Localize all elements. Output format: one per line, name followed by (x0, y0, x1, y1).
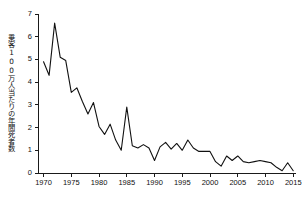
x-tick-label: 2015 (285, 178, 302, 187)
x-tick-label-group: 1970197519801985199019952000200520102015 (35, 178, 301, 187)
y-tick-label: 5 (28, 54, 32, 63)
x-tick-label: 2010 (257, 178, 274, 187)
x-tick-mark-group (44, 173, 294, 177)
y-tick-label: 0 (28, 168, 32, 177)
x-tick-label: 2005 (229, 178, 246, 187)
y-tick-label: 1 (28, 145, 32, 154)
x-tick-label: 2000 (202, 178, 219, 187)
y-tick-mark-group (35, 14, 39, 173)
x-tick-label: 1980 (91, 178, 108, 187)
y-tick-label: 4 (28, 77, 32, 86)
x-tick-label: 1985 (118, 178, 135, 187)
x-tick-label: 1995 (174, 178, 191, 187)
x-tick-label: 1970 (35, 178, 52, 187)
line-chart-plot: 01234567 1970197519801985199019952000200… (0, 0, 305, 200)
y-tick-label: 2 (28, 123, 32, 132)
y-tick-label: 7 (28, 9, 32, 18)
data-series-line (44, 23, 294, 171)
y-tick-label: 3 (28, 100, 32, 109)
y-tick-label-group: 01234567 (28, 9, 32, 177)
x-tick-label: 1990 (146, 178, 163, 187)
x-tick-label: 1975 (63, 178, 80, 187)
y-tick-label: 6 (28, 32, 32, 41)
chart-figure: 乗客100万人当たりの年間死者数 01234567 19701975198019… (0, 0, 305, 200)
